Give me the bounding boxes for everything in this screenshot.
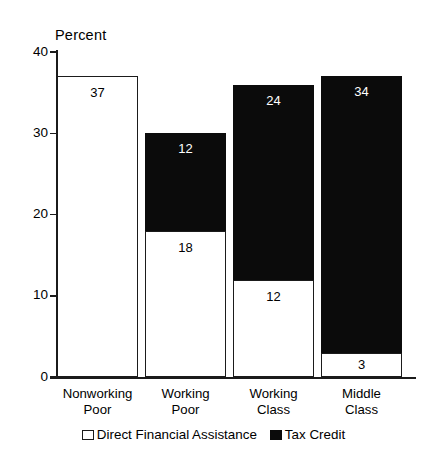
category-line-1: Nonworking	[63, 386, 133, 401]
bar-nonworking-poor[interactable]: 37	[57, 76, 138, 377]
legend-item-tax-credit[interactable]: Tax Credit	[270, 427, 345, 442]
bar-segment-tax-credit[interactable]: 34	[321, 76, 402, 352]
category-line-1: Working	[161, 386, 209, 401]
bar-value-label: 37	[58, 86, 137, 99]
bar-value-label: 12	[146, 142, 225, 155]
bar-middle-class[interactable]: 3 34	[321, 76, 402, 377]
y-axis-tick-0	[50, 376, 57, 378]
category-line-1: Middle	[342, 386, 381, 401]
x-axis-category-middle-class: Middle Class	[321, 386, 402, 417]
bar-value-label: 18	[146, 241, 225, 254]
legend-label: Tax Credit	[285, 427, 345, 442]
category-line-2: Poor	[57, 402, 138, 418]
chart-legend: Direct Financial Assistance Tax Credit	[0, 427, 427, 442]
x-axis-category-working-class: Working Class	[233, 386, 314, 417]
y-axis-tick-40	[50, 51, 57, 53]
bar-value-label: 3	[322, 358, 401, 371]
bar-value-label: 34	[322, 85, 401, 98]
legend-item-direct-financial-assistance[interactable]: Direct Financial Assistance	[82, 427, 257, 442]
x-axis-category-working-poor: Working Poor	[145, 386, 226, 417]
bar-chart: Percent 40 30 20 10 0 37 18 12 1	[0, 0, 427, 473]
y-axis-label-0: 0	[8, 370, 48, 384]
bar-segment-tax-credit[interactable]: 12	[145, 133, 226, 231]
category-line-1: Working	[249, 386, 297, 401]
bar-segment-direct-financial-assistance[interactable]: 12	[233, 280, 314, 378]
bar-working-poor[interactable]: 18 12	[145, 133, 226, 377]
y-axis-label-10: 10	[8, 288, 48, 302]
bar-segment-direct-financial-assistance[interactable]: 18	[145, 231, 226, 377]
category-line-2: Poor	[145, 402, 226, 418]
category-line-2: Class	[321, 402, 402, 418]
y-axis-tick-10	[50, 295, 57, 297]
y-axis-title: Percent	[55, 27, 106, 43]
y-axis-tick-20	[50, 214, 57, 216]
bar-segment-direct-financial-assistance[interactable]: 3	[321, 353, 402, 377]
y-axis-tick-30	[50, 133, 57, 135]
category-line-2: Class	[233, 402, 314, 418]
bar-value-label: 12	[234, 290, 313, 303]
bar-segment-tax-credit[interactable]: 24	[233, 85, 314, 280]
bar-value-label: 24	[234, 94, 313, 107]
x-axis-line	[50, 377, 416, 379]
x-axis-category-nonworking-poor: Nonworking Poor	[57, 386, 138, 417]
plot-area: 37 18 12 12 24 3 34	[57, 52, 410, 377]
white-square-icon	[82, 430, 94, 440]
bar-working-class[interactable]: 12 24	[233, 85, 314, 378]
legend-label: Direct Financial Assistance	[97, 427, 257, 442]
y-axis-label-20: 20	[8, 207, 48, 221]
black-square-icon	[270, 430, 282, 440]
bar-segment-direct-financial-assistance[interactable]: 37	[57, 76, 138, 377]
y-axis-label-30: 30	[8, 126, 48, 140]
y-axis-label-40: 40	[8, 45, 48, 59]
